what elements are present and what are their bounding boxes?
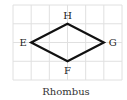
- vertex-label-h: H: [63, 10, 72, 21]
- rhombus-diagram: EHGF Rhombus: [0, 0, 127, 100]
- vertex-label-e: E: [20, 37, 27, 48]
- caption: Rhombus: [42, 86, 89, 97]
- vertex-label-f: F: [64, 65, 71, 76]
- vertex-label-g: G: [109, 37, 117, 48]
